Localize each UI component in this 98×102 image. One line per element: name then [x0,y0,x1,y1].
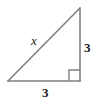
right-triangle-figure: x 3 3 [0,0,98,102]
hypotenuse-label: x [31,34,37,47]
right-angle-icon [69,70,80,81]
base-label: 3 [42,86,49,99]
vertical-leg-label: 3 [84,41,91,54]
